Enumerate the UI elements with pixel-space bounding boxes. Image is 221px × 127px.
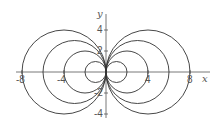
y-axis-label: y xyxy=(97,9,103,19)
axes xyxy=(16,14,210,118)
x-tick-label: 4 xyxy=(145,75,151,85)
y-tick-label: 4 xyxy=(97,25,103,35)
y-tick-label: -2 xyxy=(94,88,103,98)
y-tick-label: 2 xyxy=(97,46,103,56)
x-tick-label: 8 xyxy=(187,75,193,85)
x-tick-label: -4 xyxy=(57,75,66,85)
x-tick-label: -8 xyxy=(16,75,25,85)
y-tick-label: -4 xyxy=(94,109,103,119)
circle-family-plot xyxy=(0,0,221,127)
x-axis-label: x xyxy=(202,74,208,84)
